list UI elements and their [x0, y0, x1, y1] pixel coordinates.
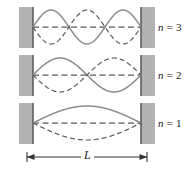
- right-arrowhead: [140, 154, 148, 160]
- mode-label-n2: n = 2: [158, 69, 182, 81]
- length-label-L: L: [81, 149, 94, 161]
- mode-label-n2-value: 2: [176, 69, 182, 81]
- mode-group-mode-n1: [19, 103, 155, 144]
- standing-wave-figure: n = 3 n = 2 n = 1 L: [0, 0, 191, 169]
- wave-solid-mode-n1: [33, 106, 141, 123]
- mode-label-n2-equals: =: [164, 69, 176, 81]
- wave-solid-mode-n3: [33, 10, 141, 44]
- mode-group-mode-n2: [19, 55, 155, 96]
- mode-label-n1-equals: =: [164, 117, 176, 129]
- wave-dashed-mode-n2: [33, 58, 141, 92]
- mode-label-n1-value: 1: [176, 117, 182, 129]
- right-wall-mode-n1: [141, 103, 155, 144]
- left-wall-mode-n3: [19, 7, 33, 48]
- left-wall-mode-n1: [19, 103, 33, 144]
- right-wall-mode-n3: [141, 7, 155, 48]
- mode-label-n1: n = 1: [158, 117, 182, 129]
- mode-label-n3: n = 3: [158, 21, 182, 33]
- right-wall-mode-n2: [141, 55, 155, 96]
- wave-dashed-mode-n1: [33, 123, 141, 140]
- left-wall-mode-n2: [19, 55, 33, 96]
- wave-dashed-mode-n3: [33, 10, 141, 44]
- mode-label-n3-equals: =: [164, 21, 176, 33]
- left-arrowhead: [27, 154, 35, 160]
- mode-group-mode-n3: [19, 7, 155, 48]
- mode-label-n3-value: 3: [176, 21, 182, 33]
